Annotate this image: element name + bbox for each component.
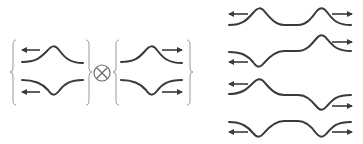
- left-set-1: [10, 40, 92, 105]
- right-brace-close: [187, 40, 193, 105]
- row-down-down: [229, 121, 352, 137]
- right-brace-open: [113, 40, 119, 105]
- tensor-product-icon: [94, 65, 110, 81]
- row-up-down: [229, 79, 352, 110]
- left-brace-open: [10, 40, 16, 105]
- left-set-2: [113, 40, 193, 105]
- state-bump-up-left: [22, 46, 83, 63]
- left-brace-close: [86, 40, 92, 105]
- wave-diagram: [0, 0, 363, 144]
- state-bump-up-right: [121, 46, 182, 63]
- state-bump-down-left: [22, 80, 83, 95]
- row-up-up: [229, 8, 352, 25]
- state-bump-down-right: [121, 80, 182, 95]
- row-down-up: [229, 35, 352, 66]
